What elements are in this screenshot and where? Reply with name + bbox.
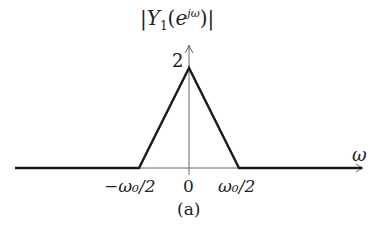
figure-caption: (a) xyxy=(177,201,200,218)
plot-title: |Y1(ejω)| xyxy=(140,8,214,32)
tick-label-pos-half-w0: ω₀/2 xyxy=(218,178,255,195)
diagram-canvas: |Y1(ejω)| 2 ω −ω₀/2 0 ω₀/2 (a) xyxy=(0,0,373,245)
x-axis-label: ω xyxy=(352,146,367,164)
peak-value-label: 2 xyxy=(172,52,183,70)
tick-label-neg-half-w0: −ω₀/2 xyxy=(104,178,155,195)
tick-label-zero: 0 xyxy=(183,178,194,195)
